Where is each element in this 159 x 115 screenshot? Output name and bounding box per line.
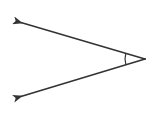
vertex-point bbox=[144, 58, 146, 60]
angle-diagram bbox=[0, 0, 159, 115]
angle-diagram-svg bbox=[0, 0, 159, 115]
upper-ray bbox=[21, 23, 145, 59]
rays-group bbox=[21, 23, 145, 97]
angle-arc-marker bbox=[125, 53, 126, 64]
